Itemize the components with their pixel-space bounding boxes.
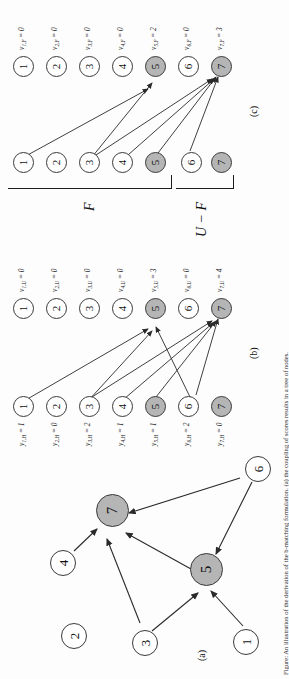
panel-a-node-4[interactable]: 4 [50, 550, 76, 576]
panel-c-left-node-6[interactable]: 6 [181, 152, 202, 173]
panel-b-right-node-7[interactable]: 7 [211, 298, 232, 319]
panel-c-left-node-7[interactable]: 7 [211, 152, 232, 173]
panel-c-left-node-5[interactable]: 5 [145, 152, 166, 173]
panel-c-right-node-2[interactable]: 2 [46, 56, 67, 77]
panel-a-node-3[interactable]: 3 [132, 630, 158, 656]
panel-b-left-node-3[interactable]: 3 [79, 396, 100, 417]
panel-c-right-node-5[interactable]: 5 [145, 56, 166, 77]
panel-a-node-7[interactable]: 7 [96, 494, 129, 527]
panel-b-left-node-5[interactable]: 5 [145, 396, 166, 417]
panel-a-node-2[interactable]: 2 [61, 623, 87, 649]
panel-a-node-6[interactable]: 6 [245, 456, 271, 482]
panel-a-node-5[interactable]: 5 [190, 553, 223, 586]
figure-rotation-wrapper: 1 2 3 4 5 6 7 (a) [0, 0, 289, 679]
panel-b-left-node-4[interactable]: 4 [112, 396, 133, 417]
panel-b-right-node-6[interactable]: 6 [178, 298, 199, 319]
panel-c-edges [0, 0, 289, 229]
figure-canvas: 1 2 3 4 5 6 7 (a) [0, 0, 289, 679]
panel-c-right-node-7[interactable]: 7 [211, 56, 232, 77]
panel-c-right-node-6[interactable]: 6 [178, 56, 199, 77]
panel-b-left-node-1[interactable]: 1 [13, 396, 34, 417]
panel-a: 1 2 3 4 5 6 7 (a) [0, 447, 289, 679]
panel-b-right-node-3[interactable]: 3 [79, 298, 100, 319]
panel-b: 1 2 3 4 5 6 7 y1,H = 1 y2,H = 0 y3,H = 2… [0, 229, 289, 447]
panel-c-left-node-4[interactable]: 4 [112, 152, 133, 173]
panel-c-right-node-4[interactable]: 4 [112, 56, 133, 77]
panel-c-left-node-3[interactable]: 3 [79, 152, 100, 173]
panel-c-left-node-2[interactable]: 2 [46, 152, 67, 173]
panel-b-right-node-2[interactable]: 2 [46, 298, 67, 319]
panel-b-edges [0, 229, 289, 447]
panel-b-left-node-6[interactable]: 6 [178, 396, 199, 417]
panel-c-right-node-3[interactable]: 3 [79, 56, 100, 77]
panel-b-left-node-2[interactable]: 2 [46, 396, 67, 417]
panel-a-node-1[interactable]: 1 [233, 629, 259, 655]
panel-c-right-node-1[interactable]: 1 [13, 56, 34, 77]
panel-c-left-node-1[interactable]: 1 [13, 152, 34, 173]
panel-b-right-node-1[interactable]: 1 [13, 298, 34, 319]
panel-b-right-node-4[interactable]: 4 [112, 298, 133, 319]
panel-c: F U − F 1 2 3 4 5 6 7 1 2 3 4 5 6 7 v1,F… [0, 0, 289, 229]
panel-b-left-node-7[interactable]: 7 [211, 396, 232, 417]
panel-b-right-node-5[interactable]: 5 [145, 298, 166, 319]
